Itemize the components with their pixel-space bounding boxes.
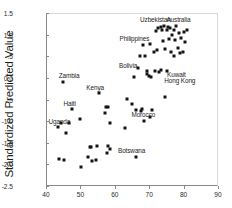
point-annotations-layer: UzbekistanAustraliaPhilippinesBoliviaKuw… (47, 14, 217, 185)
y-axis-tick: -2.5 (2, 183, 13, 190)
point-label: Australia (166, 17, 190, 23)
point-label: Zambia (59, 73, 80, 79)
x-axis-tick-mark (80, 186, 81, 189)
point-label: Hong Kong (164, 78, 195, 84)
x-axis-tick-mark (46, 186, 47, 189)
point-label: Uganda (48, 118, 70, 124)
point-label: Haiti (64, 100, 76, 106)
point-label: Botswana (118, 148, 145, 154)
y-axis-tick-mark (46, 164, 49, 165)
plot-area: UzbekistanAustraliaPhilippinesBoliviaKuw… (46, 13, 218, 186)
y-axis-tick: 1.0 (4, 31, 13, 38)
scatter-plot-figure: Standardized Predicted Value UzbekistanA… (0, 0, 232, 208)
y-axis-tick: -1.0 (2, 118, 13, 125)
y-axis-tick: .5 (8, 53, 14, 60)
x-axis-tick-mark (149, 186, 150, 189)
y-axis-tick-mark (46, 56, 49, 57)
y-axis-tick: 0.0 (4, 74, 13, 81)
y-axis-tick-mark (46, 13, 49, 14)
y-axis-tick: -.5 (5, 96, 13, 103)
x-axis-tick: 70 (146, 191, 153, 198)
x-axis-tick: 40 (42, 191, 49, 198)
point-label: Philippines (119, 35, 149, 41)
point-label: Kenya (86, 84, 104, 90)
x-axis-tick-mark (115, 186, 116, 189)
y-axis-tick-mark (46, 143, 49, 144)
y-axis-tick: -1.5 (2, 139, 13, 146)
x-axis-tick: 50 (77, 191, 84, 198)
y-axis-tick: 1.5 (4, 10, 13, 17)
y-axis-tick-mark (46, 121, 49, 122)
x-axis-tick-mark (218, 186, 219, 189)
point-label: Bolivia (119, 63, 137, 69)
x-axis-tick: 80 (180, 191, 187, 198)
x-axis-tick: 90 (214, 191, 221, 198)
x-axis-tick-mark (184, 186, 185, 189)
point-label: Morocco (131, 112, 155, 118)
y-axis-tick-mark (46, 35, 49, 36)
y-axis-tick-mark (46, 78, 49, 79)
x-axis-tick: 60 (111, 191, 118, 198)
y-axis-tick-mark (46, 100, 49, 101)
y-axis-tick: -2.0 (2, 161, 13, 168)
